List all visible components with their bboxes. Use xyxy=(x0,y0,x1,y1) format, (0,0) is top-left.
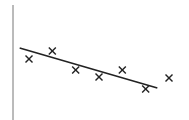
trend-line xyxy=(20,48,158,88)
scatter-chart xyxy=(0,0,189,120)
